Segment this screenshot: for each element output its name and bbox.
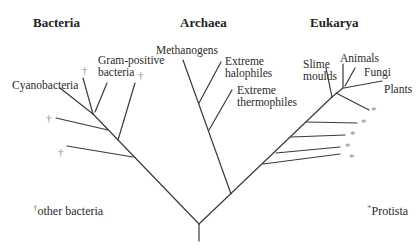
label-animals: Animals — [340, 52, 379, 64]
legend-other-bacteria: †other bacteria — [33, 203, 103, 219]
heading-archaea: Archaea — [180, 15, 227, 31]
branch-other-bacteria-2 — [56, 118, 108, 130]
label-plants: Plants — [384, 83, 412, 95]
branch-protist-4 — [276, 147, 340, 153]
branch-other-bacteria-4 — [67, 146, 133, 157]
branch-other-bacteria-top — [83, 78, 93, 114]
branch-other-bacteria-3 — [118, 83, 135, 140]
asterisk-marker-3: * — [350, 129, 356, 140]
branch-cyanobacteria — [60, 88, 93, 114]
label-thermophiles-1: Extreme — [237, 84, 276, 96]
bacteria-main-branch — [93, 114, 199, 224]
asterisk-marker-2: * — [361, 117, 367, 128]
archaea-main-branch — [183, 60, 231, 194]
asterisk-marker-5: * — [349, 152, 355, 163]
asterisk-marker-1: * — [371, 105, 377, 116]
branch-protist-5 — [263, 154, 340, 164]
dagger-marker-2: † — [138, 70, 144, 81]
label-halophiles-1: Extreme — [225, 55, 264, 67]
label-gram-positive-1: Gram-positive — [98, 54, 164, 66]
heading-eukarya: Eukarya — [310, 15, 358, 31]
branch-protist-3 — [291, 135, 345, 137]
dagger-marker-3: † — [46, 113, 52, 124]
branch-fungi — [345, 68, 355, 86]
dagger-marker-1: † — [82, 65, 88, 76]
dagger-marker-4: † — [58, 147, 64, 158]
heading-bacteria: Bacteria — [33, 15, 80, 31]
branch-protist-1 — [336, 93, 369, 110]
label-halophiles-2: halophiles — [225, 67, 272, 79]
label-fungi: Fungi — [364, 66, 391, 78]
branch-halophiles — [199, 62, 221, 103]
label-slime-1: Slime — [303, 58, 330, 70]
branch-protist-2 — [307, 122, 357, 123]
label-thermophiles-2: thermophiles — [237, 96, 297, 108]
branch-thermophiles — [209, 90, 232, 130]
branch-gram-positive — [95, 83, 107, 112]
branch-plants — [344, 81, 382, 88]
label-methanogens: Methanogens — [156, 44, 218, 56]
label-slime-2: moulds — [303, 70, 337, 82]
legend-protista: *Protista — [367, 203, 408, 219]
legend-other-bacteria-text: other bacteria — [38, 204, 104, 218]
label-gram-positive-2: bacteria — [98, 66, 134, 78]
legend-protista-text: Protista — [372, 204, 409, 218]
label-cyanobacteria: Cyanobacteria — [12, 79, 78, 91]
